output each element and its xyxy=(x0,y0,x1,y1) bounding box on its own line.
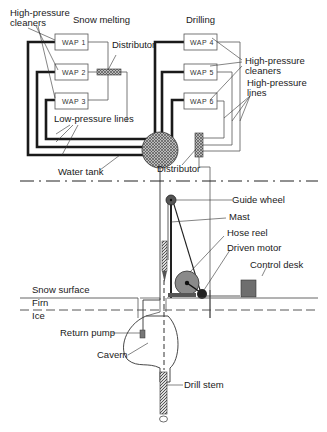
label-water-tank: Water tank xyxy=(58,166,104,177)
label-distributor-top: Distributor xyxy=(112,39,155,50)
wap-4-unit: WAP 4 xyxy=(184,34,217,50)
label-ice: Ice xyxy=(32,310,45,321)
cavern xyxy=(124,316,178,382)
label-driven-motor: Driven motor xyxy=(227,242,281,253)
label-snow-surface: Snow surface xyxy=(32,284,90,295)
wap-4-label: WAP 4 xyxy=(190,39,214,46)
label-hp-lines-2: lines xyxy=(247,87,267,98)
return-line xyxy=(143,168,160,330)
label-mast: Mast xyxy=(229,211,250,222)
wap-2-unit: WAP 2 xyxy=(55,64,88,80)
label-hp-cleaners-left-2: cleaners xyxy=(10,17,46,28)
label-low-pressure-lines: Low-pressure lines xyxy=(54,113,134,124)
wap-6-label: WAP 6 xyxy=(190,98,214,105)
return-pump xyxy=(140,330,145,338)
wap-1-unit: WAP 1 xyxy=(55,34,88,50)
hp-lines-left xyxy=(88,42,127,122)
control-desk xyxy=(241,280,256,297)
wap-2-label: WAP 2 xyxy=(62,69,86,76)
drilling-system-diagram: WAP 1 WAP 2 WAP 3 WAP 4 WAP 5 WAP 6 xyxy=(0,0,327,432)
label-guide-wheel: Guide wheel xyxy=(232,194,285,205)
low-pressure-lines-left xyxy=(28,42,150,155)
label-distributor-bottom: Distributor xyxy=(157,163,200,174)
label-cavern: Cavern xyxy=(97,349,128,360)
label-firn: Firn xyxy=(32,297,48,308)
label-hp-cleaners-right-2: cleaners xyxy=(245,65,281,76)
wap-3-label: WAP 3 xyxy=(62,98,86,105)
drill-stem xyxy=(160,372,167,414)
label-drill-stem: Drill stem xyxy=(184,379,224,390)
drill-head xyxy=(160,416,168,422)
hp-lines-right xyxy=(199,42,240,318)
wap-1-label: WAP 1 xyxy=(62,39,86,46)
wap-5-unit: WAP 5 xyxy=(184,64,217,80)
label-snow-melting: Snow melting xyxy=(73,14,130,25)
wap-5-label: WAP 5 xyxy=(190,69,214,76)
wap-3-unit: WAP 3 xyxy=(55,93,88,109)
label-control-desk: Control desk xyxy=(250,259,304,270)
wap-6-unit: WAP 6 xyxy=(184,93,217,109)
distributor-snow-melting xyxy=(97,69,121,75)
distributor-drilling xyxy=(195,133,203,157)
label-return-pump: Return pump xyxy=(60,327,115,338)
driven-motor xyxy=(197,289,207,299)
label-hose-reel: Hose reel xyxy=(227,227,268,238)
label-drilling: Drilling xyxy=(186,14,215,25)
